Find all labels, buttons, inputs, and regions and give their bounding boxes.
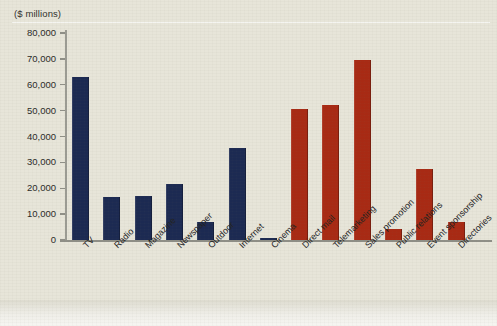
y-axis-tick-label: 10,000: [2, 208, 56, 219]
bar-fill: [72, 77, 89, 240]
page-footer-fragment: [6, 313, 306, 323]
y-axis-tick-label: 20,000: [2, 182, 56, 193]
y-axis-tick-label: 30,000: [2, 156, 56, 167]
bar-radio[interactable]: [103, 197, 120, 240]
bar-direct-mail[interactable]: [291, 109, 308, 240]
bar-chart: ($ millions) 010,00020,00030,00040,00050…: [0, 0, 497, 300]
bar-magazine[interactable]: [135, 196, 152, 240]
y-axis-tick-label: 0: [2, 234, 56, 245]
bar-fill: [291, 109, 308, 240]
y-axis-tick-label: 70,000: [2, 53, 56, 64]
page-canvas: ($ millions) 010,00020,00030,00040,00050…: [0, 0, 497, 326]
y-axis-tick-label: 60,000: [2, 79, 56, 90]
header-divider: [12, 22, 490, 23]
bar-tv[interactable]: [72, 77, 89, 240]
bar-fill: [135, 196, 152, 240]
y-axis-labels: 010,00020,00030,00040,00050,00060,00070,…: [0, 0, 56, 300]
y-axis-tick-label: 40,000: [2, 131, 56, 142]
y-axis-tick-label: 80,000: [2, 27, 56, 38]
y-axis-tick-label: 50,000: [2, 105, 56, 116]
bar-fill: [103, 197, 120, 240]
